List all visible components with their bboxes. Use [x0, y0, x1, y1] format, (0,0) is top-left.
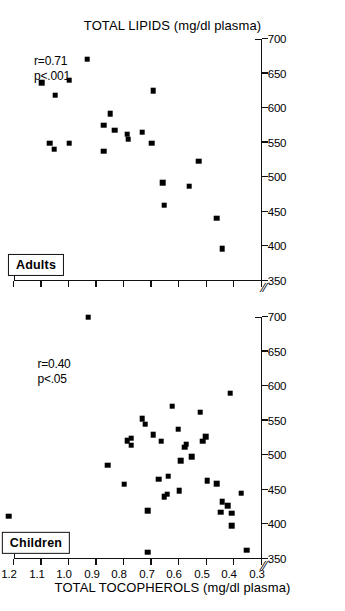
y-tick — [40, 559, 41, 565]
data-point — [186, 184, 191, 189]
y-tick — [123, 559, 124, 565]
x-tick-label: 400 — [268, 518, 287, 530]
data-point — [200, 439, 205, 444]
stats-r-adults: r=0.71 — [34, 54, 70, 69]
data-point — [178, 458, 183, 463]
data-point — [145, 508, 150, 513]
x-tick-label: 400 — [268, 240, 287, 252]
data-point — [214, 215, 219, 220]
y-tick — [233, 281, 234, 287]
y-tick — [261, 281, 262, 287]
data-point — [225, 503, 230, 508]
y-tick — [206, 281, 207, 287]
data-point — [53, 92, 58, 97]
data-point — [228, 390, 233, 395]
data-point — [128, 442, 133, 447]
data-point — [164, 491, 169, 496]
y-tick — [123, 281, 124, 287]
data-point — [122, 482, 127, 487]
data-point — [196, 159, 201, 164]
stats-r-children: r=0.40 — [37, 358, 70, 373]
data-point — [229, 523, 234, 528]
x-tick-label: 500 — [268, 171, 287, 183]
x-tick-label: 550 — [268, 137, 287, 149]
data-point — [177, 488, 182, 493]
x-tick-label: 650 — [268, 68, 287, 80]
data-point — [197, 410, 202, 415]
scatter-figure: ⁄⁄ 0.30.40.50.60.70.80.91.01.11.23504004… — [0, 0, 345, 611]
stats-adults: r=0.71 p<.001 — [34, 54, 70, 84]
data-point — [175, 426, 180, 431]
x-tick-label: 600 — [268, 102, 287, 114]
data-point — [86, 314, 91, 319]
y-tick — [40, 281, 41, 287]
panel-children: ⁄⁄ 0.30.40.50.60.70.80.91.01.11.23504004… — [14, 317, 262, 559]
y-tick — [68, 559, 69, 565]
y-tick — [150, 559, 151, 565]
data-point — [128, 435, 133, 440]
data-point — [66, 141, 71, 146]
axis-break-adults: ⁄⁄ — [262, 281, 266, 294]
y-axis-line-adults — [14, 280, 262, 281]
data-point — [189, 454, 194, 459]
x-tick-label: 650 — [268, 346, 287, 358]
data-point — [51, 146, 56, 151]
x-tick-label: 600 — [268, 380, 287, 392]
x-tick-label: 350 — [268, 553, 287, 565]
y-tick — [178, 281, 179, 287]
data-point — [126, 137, 131, 142]
y-axis-title: TOTAL TOCOPHEROLS (mg/dl plasma) — [54, 580, 290, 595]
data-point — [166, 473, 171, 478]
data-point — [150, 88, 155, 93]
y-tick — [68, 281, 69, 287]
data-point — [160, 180, 165, 185]
data-point — [214, 481, 219, 486]
panel-title-adults: Adults — [8, 254, 64, 276]
data-point — [156, 477, 161, 482]
panel-title-children: Children — [2, 532, 70, 554]
data-point — [161, 202, 166, 207]
x-axis-cap-adults — [255, 39, 262, 40]
data-point — [108, 111, 113, 116]
data-point — [149, 141, 154, 146]
y-tick — [13, 281, 14, 287]
x-tick-label: 450 — [268, 206, 287, 218]
y-tick — [233, 559, 234, 565]
data-point — [204, 478, 209, 483]
data-point — [112, 128, 117, 133]
y-tick — [178, 559, 179, 565]
y-tick-label: 1.1 — [29, 569, 44, 581]
x-tick-label: 350 — [268, 275, 287, 287]
data-point — [170, 404, 175, 409]
data-point — [139, 130, 144, 135]
data-point — [101, 123, 106, 128]
data-point — [105, 462, 110, 467]
data-point — [229, 511, 234, 516]
x-axis-cap-children — [255, 317, 262, 318]
y-axis-line-children — [14, 558, 262, 559]
y-tick — [13, 559, 14, 565]
data-point — [244, 547, 249, 552]
y-tick — [95, 559, 96, 565]
y-tick — [95, 281, 96, 287]
data-point — [150, 432, 155, 437]
panel-adults: ⁄⁄ 350400450500550600650700 Adults r=0.7… — [14, 39, 262, 281]
x-tick-label: 700 — [268, 311, 287, 323]
y-tick — [206, 559, 207, 565]
data-point — [142, 421, 147, 426]
data-point — [101, 148, 106, 153]
x-tick-label: 550 — [268, 415, 287, 427]
y-tick — [261, 559, 262, 565]
data-point — [203, 434, 208, 439]
x-tick-label: 500 — [268, 449, 287, 461]
figure-rotator: ⁄⁄ 0.30.40.50.60.70.80.91.01.11.23504004… — [0, 0, 345, 611]
x-axis-title: TOTAL LIPIDS (mg/dl plasma) — [83, 18, 260, 33]
data-point — [184, 442, 189, 447]
stats-p-adults: p<.001 — [34, 69, 70, 84]
stats-children: r=0.40 p<.05 — [37, 358, 70, 388]
plot-area-children: ⁄⁄ 0.30.40.50.60.70.80.91.01.11.23504004… — [14, 317, 262, 559]
data-point — [219, 246, 224, 251]
y-tick — [150, 281, 151, 287]
data-point — [84, 56, 89, 61]
data-point — [6, 513, 11, 518]
